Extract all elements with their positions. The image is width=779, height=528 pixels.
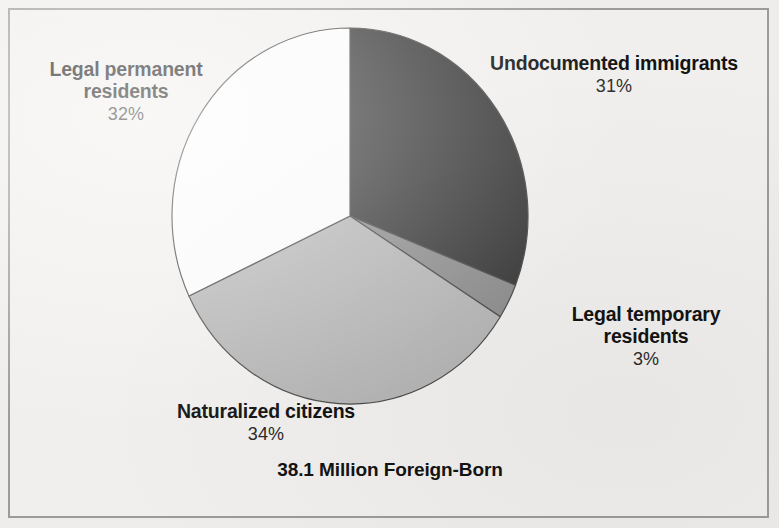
slice-label-text-line1: Legal permanent	[16, 58, 236, 80]
slice-value-naturalized-citizens: 34%	[126, 424, 406, 444]
chart-caption: 38.1 Million Foreign-Born	[230, 459, 550, 481]
slice-value-undocumented-immigrants: 31%	[464, 76, 764, 96]
slice-label-legal-temporary-residents: Legal temporary residents 3%	[536, 303, 756, 369]
slice-label-undocumented-immigrants: Undocumented immigrants 31%	[464, 52, 764, 96]
slice-label-text-line1: Undocumented immigrants	[464, 52, 764, 74]
pie-chart: Undocumented immigrants 31%Legal tempora…	[0, 0, 779, 528]
slice-label-text-line1: Naturalized citizens	[126, 400, 406, 422]
figure-container: Undocumented immigrants 31%Legal tempora…	[0, 0, 779, 528]
slice-label-text-line1: Legal temporary	[536, 303, 756, 325]
slice-label-legal-permanent-residents: Legal permanent residents 32%	[16, 58, 236, 124]
slice-value-legal-temporary-residents: 3%	[536, 349, 756, 369]
slice-label-text-line2: residents	[16, 80, 236, 102]
slice-label-naturalized-citizens: Naturalized citizens 34%	[126, 400, 406, 444]
slice-value-legal-permanent-residents: 32%	[16, 104, 236, 124]
slice-label-text-line2: residents	[536, 325, 756, 347]
